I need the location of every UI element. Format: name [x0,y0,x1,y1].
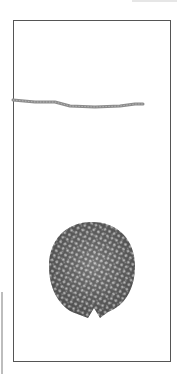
particle-rod [13,100,143,107]
figure-scene [0,0,189,374]
particle-disc [45,218,140,322]
